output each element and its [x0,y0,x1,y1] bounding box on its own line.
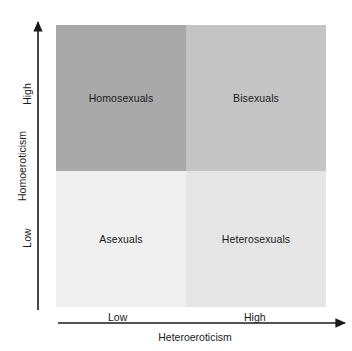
quadrant-matrix: Homosexuals Bisexuals Asexuals Heterosex… [56,25,326,307]
quadrant-label-heterosexuals: Heterosexuals [222,233,290,245]
quadrant-cell-homosexuals: Homosexuals [56,25,186,171]
x-axis-title: Heteroeroticism [60,331,330,343]
x-axis-tick-high: High [244,311,266,323]
y-axis-title: Homoeroticism [16,56,28,276]
quadrant-label-asexuals: Asexuals [99,233,142,245]
quadrant-label-homosexuals: Homosexuals [89,92,154,104]
quadrant-diagram: Homosexuals Bisexuals Asexuals Heterosex… [0,0,352,351]
quadrant-cell-heterosexuals: Heterosexuals [186,171,326,307]
x-axis-tick-low: Low [108,311,127,323]
quadrant-label-bisexuals: Bisexuals [233,92,279,104]
quadrant-cell-bisexuals: Bisexuals [186,25,326,171]
quadrant-cell-asexuals: Asexuals [56,171,186,307]
